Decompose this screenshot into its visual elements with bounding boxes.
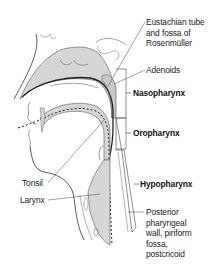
hypopharynx-label: Hypopharynx [140, 179, 192, 190]
cervical-outline-2 [118, 152, 128, 232]
chin-neck-outline [30, 146, 84, 240]
trachea-ring [94, 228, 98, 236]
adenoids-label: Adenoids [146, 65, 180, 76]
tonsil-label: Tonsil [22, 178, 43, 189]
larynx-label: Larynx [20, 195, 45, 206]
nasal-bone-outline [40, 34, 56, 38]
trachea-ring [84, 198, 88, 210]
posterior-label: Posterior pharyngeal wall, piriform foss… [146, 207, 192, 260]
pharynx-diagram: Eustachian tube and fossa of Rosenmüller… [0, 0, 213, 278]
oropharynx-label: Oropharynx [133, 128, 179, 139]
larynx-tissue [88, 160, 110, 245]
lower-lip-outline [29, 130, 31, 146]
nasopharynx-label: Nasopharynx [133, 88, 185, 99]
incisor [40, 108, 45, 132]
upper-lip-outline [28, 102, 36, 124]
eustachian-leader [108, 22, 145, 86]
eustachian-label: Eustachian tube and fossa of Rosenmüller [146, 17, 205, 49]
nasopharynx-bracket [116, 69, 126, 118]
turbinate-3 [50, 83, 98, 88]
epiglottis [99, 146, 104, 160]
skull-outline [96, 38, 126, 45]
oropharynx-bracket [116, 118, 126, 149]
adenoids-leader [114, 70, 145, 84]
